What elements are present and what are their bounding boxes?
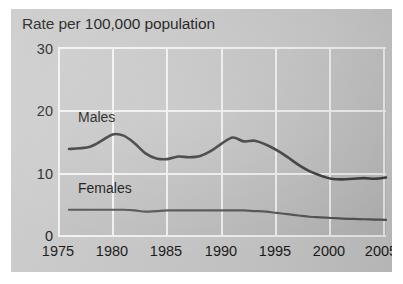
x-tick-1975: 1975 <box>42 243 74 259</box>
x-tick-1990: 1990 <box>205 243 237 259</box>
y-tick-30: 30 <box>15 41 53 57</box>
plot-area: Males Females <box>58 47 386 237</box>
series-label-males: Males <box>78 109 115 125</box>
x-tick-2000: 2000 <box>313 243 345 259</box>
x-tick-2005: 2005 <box>365 243 392 259</box>
y-tick-20: 20 <box>15 103 53 119</box>
x-tick-1995: 1995 <box>259 243 291 259</box>
x-axis: 1975 1980 1985 1990 1995 2000 2005 <box>58 243 386 267</box>
y-tick-10: 10 <box>15 166 53 182</box>
x-tick-1985: 1985 <box>150 243 182 259</box>
series-line-females <box>69 210 386 220</box>
x-tick-1980: 1980 <box>96 243 128 259</box>
series-line-males <box>69 134 386 179</box>
y-axis: 30 20 10 0 <box>11 47 53 237</box>
chart-title: Rate per 100,000 population <box>22 15 215 33</box>
series-label-females: Females <box>78 180 132 196</box>
series-lines <box>58 47 386 237</box>
y-tick-0: 0 <box>15 228 53 244</box>
chart-figure: Rate per 100,000 population Males Female… <box>11 9 392 272</box>
